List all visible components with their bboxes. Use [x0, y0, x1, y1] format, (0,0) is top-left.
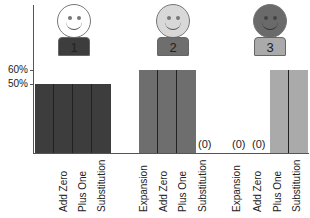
bar-g1-plus-one — [73, 84, 92, 153]
bar-g2-expansion — [139, 70, 158, 153]
y-label-50: 50% — [8, 79, 28, 89]
smile-icon — [66, 19, 82, 30]
x-label: Substitution — [96, 160, 108, 212]
smile-icon — [262, 19, 278, 30]
x-label: Substitution — [291, 160, 303, 212]
bar-g1-add-zero — [54, 84, 73, 153]
x-label: Plus One — [177, 171, 189, 212]
smiley-face-icon — [156, 4, 190, 38]
group-badge-3: 3 — [254, 37, 286, 56]
person-icon-3: 3 — [249, 4, 291, 60]
smiley-face-icon — [57, 4, 91, 38]
smile-icon — [165, 19, 181, 30]
y-label-60: 60% — [8, 65, 28, 75]
bar-g1-1 — [35, 84, 54, 153]
bar-g2-add-zero — [158, 70, 177, 153]
group-badge-2: 2 — [157, 37, 189, 56]
x-axis — [33, 153, 309, 154]
y-axis — [33, 5, 34, 154]
zero-annotation-g3-expansion: (0) — [232, 138, 245, 150]
x-label: Add Zero — [252, 171, 264, 212]
y-tick-60 — [30, 70, 34, 71]
bar-g2-plus-one — [177, 70, 196, 153]
x-label: Plus One — [272, 171, 284, 212]
x-label: Expansion — [231, 165, 243, 212]
zero-annotation-g2-substitution: (0) — [198, 138, 211, 150]
zero-annotation-g3-add-zero: (0) — [252, 138, 265, 150]
bar-g3-plus-one — [270, 70, 289, 153]
x-label: Add Zero — [58, 171, 70, 212]
x-label: Substitution — [197, 160, 209, 212]
y-tick-50 — [30, 84, 34, 85]
person-icon-1: 1 — [53, 4, 95, 60]
group-badge-1: 1 — [58, 37, 90, 56]
bar-g1-substitution — [92, 84, 111, 153]
x-label: Expansion — [138, 165, 150, 212]
x-label: Add Zero — [158, 171, 170, 212]
person-icon-2: 2 — [152, 4, 194, 60]
bar-g3-substitution — [289, 70, 308, 153]
smiley-face-icon — [253, 4, 287, 38]
x-label: Plus One — [77, 171, 89, 212]
